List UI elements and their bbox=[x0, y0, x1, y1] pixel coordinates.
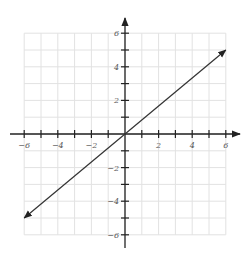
y-tick-label: 6 bbox=[114, 29, 119, 38]
y-tick-label: 4 bbox=[113, 63, 119, 72]
y-tick-label: −6 bbox=[107, 231, 119, 240]
y-tick-label: 2 bbox=[113, 96, 119, 105]
y-tick-label: −2 bbox=[107, 164, 119, 173]
y-tick-label: −4 bbox=[107, 197, 119, 206]
x-tick-label: 6 bbox=[223, 141, 228, 150]
coordinate-plane: −6−4−2246642−2−4−6 bbox=[0, 0, 251, 261]
x-tick-label: −2 bbox=[86, 141, 98, 150]
x-tick-label: −4 bbox=[52, 141, 64, 150]
x-tick-label: 4 bbox=[189, 141, 195, 150]
x-tick-label: −6 bbox=[18, 141, 30, 150]
x-tick-label: 2 bbox=[155, 141, 161, 150]
